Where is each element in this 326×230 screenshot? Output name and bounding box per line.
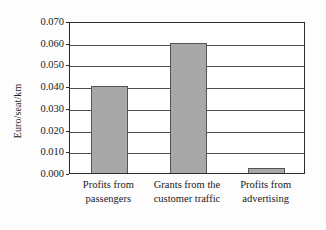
bar bbox=[91, 86, 128, 173]
y-axis-tick-mark bbox=[66, 174, 69, 175]
plot-area bbox=[69, 22, 305, 174]
y-axis-title: Euro/seat/km bbox=[11, 56, 25, 166]
y-axis-tick-label: 0.030 bbox=[24, 104, 64, 115]
x-axis-category-label: Grants from thecustomer traffic bbox=[142, 178, 233, 205]
x-axis-category-label-line: customer traffic bbox=[142, 192, 233, 206]
x-axis-category-label-line: Profits from bbox=[220, 178, 311, 192]
x-axis-category-label-line: advertising bbox=[220, 192, 311, 206]
bar-chart: Euro/seat/km 0.0700.0600.0500.0400.0300.… bbox=[0, 0, 326, 230]
x-axis-category-label-line: Profits from bbox=[63, 178, 154, 192]
bars-group bbox=[70, 23, 304, 173]
y-axis-tick-label: 0.060 bbox=[24, 39, 64, 50]
x-axis-category-labels: Profits frompassengersGrants from thecus… bbox=[69, 178, 305, 222]
y-axis-tick-label: 0.040 bbox=[24, 82, 64, 93]
bar bbox=[170, 43, 207, 173]
x-axis-category-label: Profits fromadvertising bbox=[220, 178, 311, 205]
y-axis-tick-label: 0.000 bbox=[24, 169, 64, 180]
x-axis-category-label: Profits frompassengers bbox=[63, 178, 154, 205]
x-axis-category-label-line: Grants from the bbox=[142, 178, 233, 192]
bar bbox=[248, 168, 285, 173]
y-axis-tick-label: 0.020 bbox=[24, 126, 64, 137]
y-axis-tick-label: 0.070 bbox=[24, 17, 64, 28]
y-axis-tick-label: 0.050 bbox=[24, 60, 64, 71]
y-axis-tick-labels: 0.0700.0600.0500.0400.0300.0200.0100.000 bbox=[24, 22, 64, 174]
x-axis-category-label-line: passengers bbox=[63, 192, 154, 206]
y-axis-tick-label: 0.010 bbox=[24, 147, 64, 158]
